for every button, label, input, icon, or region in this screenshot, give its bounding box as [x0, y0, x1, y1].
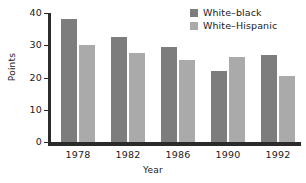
bar-group: [211, 13, 245, 142]
x-axis-line: [48, 142, 301, 146]
chart-legend: White–blackWhite–Hispanic: [190, 6, 277, 32]
x-axis-tick-label: 1986: [156, 149, 200, 160]
plot-area: [51, 13, 301, 142]
bar-1990-series1: [229, 57, 245, 142]
bar-1992-series1: [279, 76, 295, 142]
y-axis-tick-label: 10: [20, 104, 42, 115]
y-axis-title: Points: [7, 37, 17, 97]
legend-item: White–black: [190, 6, 277, 19]
x-axis-tick-label: 1992: [256, 149, 300, 160]
legend-swatch-white-hispanic: [190, 22, 198, 30]
bar-1978-series0: [61, 19, 77, 142]
bar-1982-series0: [111, 37, 127, 142]
x-axis-tick-label: 1982: [106, 149, 150, 160]
legend-label: White–Hispanic: [203, 20, 277, 31]
bar-group: [111, 13, 145, 142]
y-axis-tick-label: 0: [20, 136, 42, 147]
legend-swatch-white-black: [190, 9, 198, 17]
bar-chart: Points 010203040 19781982198619901992 Ye…: [0, 0, 306, 183]
bar-1986-series0: [161, 47, 177, 142]
bar-group: [261, 13, 295, 142]
bar-group: [161, 13, 195, 142]
bar-1978-series1: [79, 45, 95, 142]
y-axis-tick-label: 40: [20, 7, 42, 18]
bar-1990-series0: [211, 71, 227, 142]
bar-group: [61, 13, 95, 142]
x-axis-tick-label: 1978: [56, 149, 100, 160]
x-axis-title: Year: [0, 165, 306, 175]
bar-1992-series0: [261, 55, 277, 142]
y-axis-tick-label: 30: [20, 39, 42, 50]
y-axis-tick-label: 20: [20, 72, 42, 83]
bar-1982-series1: [129, 53, 145, 142]
legend-item: White–Hispanic: [190, 19, 277, 32]
legend-label: White–black: [203, 7, 262, 18]
x-axis-tick-label: 1990: [206, 149, 250, 160]
bar-1986-series1: [179, 60, 195, 142]
